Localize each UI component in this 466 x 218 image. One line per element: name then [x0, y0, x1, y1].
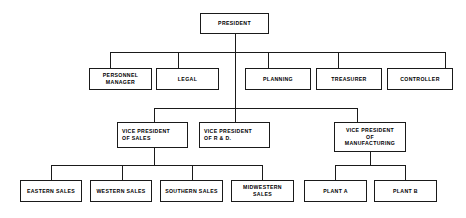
node-western-sales-label: WESTERN SALES — [91, 188, 151, 195]
node-midwestern-sales[interactable]: MIDWESTERN SALES — [231, 180, 294, 202]
connector-vp-sales-trunk — [154, 148, 155, 166]
connector-level3-bus — [154, 108, 358, 109]
node-vp-manufacturing-label: VICE PRESIDENT OF MANUFACTURING — [335, 127, 405, 147]
org-chart: PRESIDENT PERSONNEL MANAGER LEGAL PLANNI… — [0, 0, 466, 218]
connector-sales-bus — [51, 165, 263, 166]
node-treasurer-label: TREASURER — [317, 76, 381, 83]
node-legal-label: LEGAL — [157, 76, 218, 83]
node-vp-manufacturing[interactable]: VICE PRESIDENT OF MANUFACTURING — [334, 122, 406, 152]
connector-drop-western-sales — [122, 165, 123, 180]
connector-drop-vp-sales — [154, 108, 155, 122]
node-southern-sales[interactable]: SOUTHERN SALES — [160, 180, 223, 202]
connector-drop-plant-b — [405, 165, 406, 180]
connector-drop-vp-manufacturing — [357, 108, 358, 122]
connector-drop-planning — [268, 52, 269, 68]
connector-president-trunk — [235, 34, 236, 109]
node-midwestern-sales-label: MIDWESTERN SALES — [232, 184, 293, 197]
node-personnel-manager-label: PERSONNEL MANAGER — [90, 72, 151, 85]
node-legal[interactable]: LEGAL — [156, 68, 219, 90]
connector-drop-southern-sales — [192, 165, 193, 180]
node-vp-rd[interactable]: VICE PRESIDENT OF R & D. — [199, 122, 270, 148]
connector-drop-personnel-manager — [110, 52, 111, 68]
node-president[interactable]: PRESIDENT — [200, 13, 269, 34]
connector-drop-treasurer — [338, 52, 339, 68]
node-plant-a-label: PLANT A — [305, 188, 366, 195]
node-controller[interactable]: CONTROLLER — [387, 68, 453, 90]
node-vp-sales[interactable]: VICE PRESIDENT OF SALES — [117, 122, 188, 148]
node-treasurer[interactable]: TREASURER — [316, 68, 382, 90]
node-southern-sales-label: SOUTHERN SALES — [161, 188, 222, 195]
connector-drop-vp-rd — [235, 108, 236, 122]
node-personnel-manager[interactable]: PERSONNEL MANAGER — [89, 68, 152, 90]
connector-drop-eastern-sales — [51, 165, 52, 180]
node-president-label: PRESIDENT — [201, 20, 268, 27]
connector-drop-controller — [445, 52, 446, 68]
connector-drop-plant-a — [335, 165, 336, 180]
node-western-sales[interactable]: WESTERN SALES — [90, 180, 152, 202]
connector-vp-manufacturing-trunk — [370, 152, 371, 166]
connector-plants-bus — [335, 165, 406, 166]
connector-drop-legal — [178, 52, 179, 68]
node-vp-sales-label: VICE PRESIDENT OF SALES — [118, 128, 187, 141]
connector-drop-midwestern-sales — [262, 165, 263, 180]
node-vp-rd-label: VICE PRESIDENT OF R & D. — [200, 128, 269, 141]
node-eastern-sales[interactable]: EASTERN SALES — [20, 180, 82, 202]
node-planning[interactable]: PLANNING — [245, 68, 311, 90]
node-plant-a[interactable]: PLANT A — [304, 180, 367, 202]
node-eastern-sales-label: EASTERN SALES — [21, 188, 81, 195]
node-controller-label: CONTROLLER — [388, 76, 452, 83]
connector-level2-bus — [110, 52, 446, 53]
node-plant-b[interactable]: PLANT B — [374, 180, 437, 202]
node-plant-b-label: PLANT B — [375, 188, 436, 195]
node-planning-label: PLANNING — [246, 76, 310, 83]
